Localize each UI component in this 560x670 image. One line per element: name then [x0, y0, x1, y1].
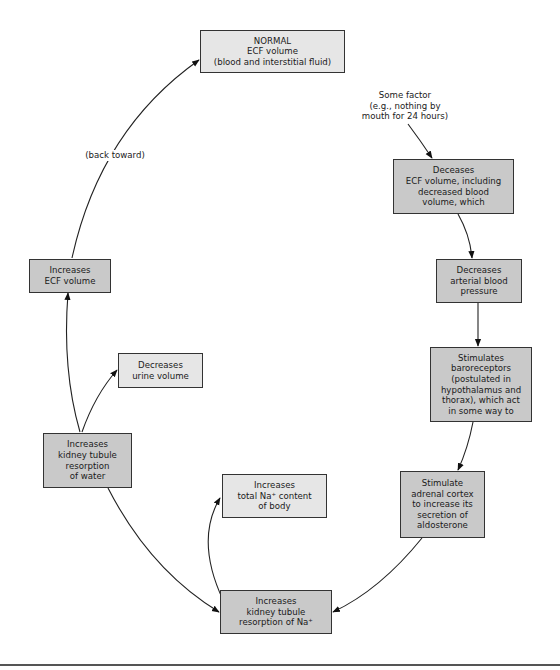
- arrow-kidney-water-to-kidney-na: [108, 488, 219, 612]
- node-normal-ecf: NORMAL ECF volume (blood and interstitia…: [200, 30, 345, 73]
- node-text: Increases ECF volume: [45, 265, 96, 286]
- node-text: Decreases arterial blood pressure: [450, 265, 508, 297]
- node-kidney-na: Increases kidney tubule resorption of Na…: [220, 590, 332, 634]
- node-text: Deceases ECF volume, including decreased…: [406, 165, 502, 207]
- node-text: NORMAL ECF volume (blood and interstitia…: [214, 36, 331, 68]
- node-text: Increases total Na⁺ content of body: [237, 480, 311, 512]
- node-increases-ecf: Increases ECF volume: [29, 259, 111, 293]
- node-text: Decreases urine volume: [132, 360, 189, 381]
- node-decreases-ecf: Deceases ECF volume, including decreased…: [393, 159, 514, 214]
- arrow-ecf-to-bp: [458, 214, 472, 258]
- node-text: Increases kidney tubule resorption of Na…: [239, 596, 313, 628]
- node-some-factor: Some factor (e.g., nothing by mouth for …: [350, 90, 460, 122]
- node-text: Increases kidney tubule resorption of wa…: [58, 439, 117, 481]
- arrow-adrenal-to-kidney-na: [333, 538, 422, 612]
- node-decreases-bp: Decreases arterial blood pressure: [436, 259, 522, 303]
- node-kidney-water: Increases kidney tubule resorption of wa…: [43, 433, 132, 488]
- node-urine-volume: Decreases urine volume: [118, 353, 203, 388]
- page-rule: [0, 664, 560, 666]
- node-adrenal-cortex: Stimulate adrenal cortex to increase its…: [400, 471, 485, 538]
- node-baroreceptors: Stimulates baroreceptors (postulated in …: [430, 347, 532, 422]
- arrow-baro-to-adrenal: [458, 422, 473, 470]
- arrow-factor-to-decreases-ecf: [408, 124, 432, 158]
- arrow-kidney-water-to-urine: [82, 370, 117, 432]
- arrow-kidney-water-to-increases-ecf: [67, 293, 81, 432]
- node-total-na: Increases total Na⁺ content of body: [222, 474, 327, 518]
- node-text: Stimulates baroreceptors (postulated in …: [441, 353, 521, 417]
- edge-label-back-toward: (back toward): [80, 150, 150, 161]
- connector-layer: [0, 0, 560, 670]
- node-text: Stimulate adrenal cortex to increase its…: [411, 478, 473, 531]
- arrow-kidney-na-to-total-na: [208, 498, 223, 600]
